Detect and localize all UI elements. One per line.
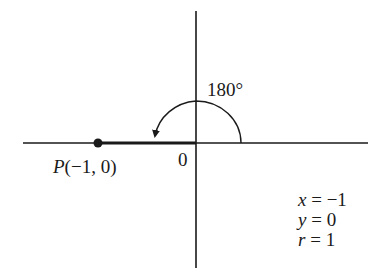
value-y: 0 — [327, 209, 337, 230]
origin-label: 0 — [178, 150, 188, 169]
point-name: P — [53, 156, 65, 177]
values-block: x = −1 y = 0 r = 1 — [298, 190, 347, 250]
point-label: P(−1, 0) — [53, 157, 116, 176]
angle-label: 180° — [207, 80, 243, 99]
value-r: 1 — [326, 229, 336, 250]
equation-r: r = 1 — [298, 230, 347, 250]
angle-value: 180° — [207, 79, 243, 100]
equation-x: x = −1 — [298, 190, 347, 210]
equals: = — [305, 229, 325, 250]
equation-y: y = 0 — [298, 210, 347, 230]
point-p — [94, 139, 103, 148]
origin-value: 0 — [178, 149, 188, 170]
value-x: −1 — [327, 189, 347, 210]
equals: = — [306, 189, 326, 210]
angle-arc-arrow — [155, 101, 241, 143]
equals: = — [306, 209, 326, 230]
point-coords: (−1, 0) — [65, 156, 117, 177]
